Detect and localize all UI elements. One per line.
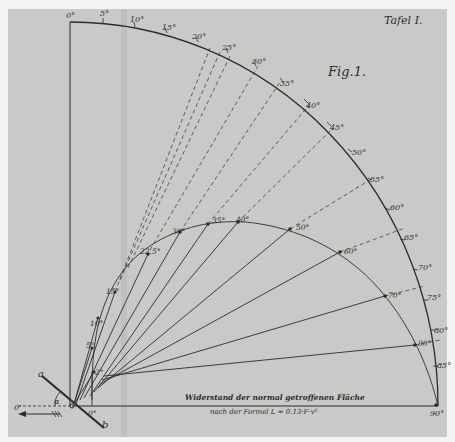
outer-label-75: 75° — [427, 293, 441, 302]
plate-title: Tafel I. — [384, 14, 422, 27]
inner-label-70: 70° — [388, 291, 402, 300]
caption-line-2: nach der Formel L = 0.13·F·v² — [210, 408, 318, 416]
outer-label-10: 10° — [130, 15, 144, 24]
outer-label-35: 35° — [280, 79, 294, 88]
inner-label-10: 10° — [90, 319, 104, 328]
force-diagram: 0° 5° 10° 15° 20° 25° 30° 35° 40° 45° 50… — [0, 0, 455, 442]
outer-label-50: 50° — [352, 148, 366, 157]
outer-label-60: 60° — [390, 203, 404, 212]
label-b: b — [102, 419, 108, 430]
dashed-rays — [115, 48, 440, 345]
label-a: a — [38, 368, 44, 379]
inner-label-15: 15° — [106, 287, 120, 296]
inner-curve-labels: 0° 2° 5° 10° 15° 22.5° 30° 35° 40° 50° 6… — [86, 215, 432, 418]
outer-label-0: 0° — [66, 11, 75, 20]
inner-label-35: 35° — [212, 216, 226, 225]
outer-label-25: 25° — [221, 43, 236, 52]
outer-label-30: 30° — [252, 57, 266, 66]
inner-label-5: 5° — [86, 341, 95, 350]
inner-label-0: 0° — [88, 409, 97, 418]
outer-label-80: 80° — [434, 326, 448, 335]
outer-label-70: 70° — [418, 263, 432, 272]
outer-label-5: 5° — [100, 9, 109, 18]
inner-label-2: 2° — [94, 368, 104, 377]
label-alpha: α — [54, 397, 60, 406]
outer-label-90: 90° — [430, 409, 444, 418]
outer-label-85: 85° — [437, 361, 451, 370]
plane-ab — [42, 376, 104, 428]
outer-label-20: 20° — [191, 32, 206, 41]
inner-label-30: 30° — [172, 227, 186, 236]
caption-line-1: Widerstand der normal getroffenen Fläche — [185, 393, 365, 402]
inner-label-60: 60° — [344, 247, 358, 256]
outer-label-45: 45° — [329, 123, 344, 132]
outer-ticks — [103, 18, 438, 366]
solid-rays — [74, 222, 415, 404]
inner-label-22-5: 22.5° — [139, 247, 161, 256]
outer-label-15: 15° — [162, 23, 176, 32]
outer-label-65: 65° — [404, 233, 418, 242]
inner-label-80: 80° — [418, 339, 432, 348]
figure-label: Fig.1. — [327, 64, 366, 79]
inner-label-50: 50° — [296, 223, 310, 232]
outer-label-40: 40° — [305, 101, 320, 110]
inner-label-40: 40° — [235, 215, 250, 224]
outer-label-55: 55° — [370, 175, 384, 184]
label-origin: 0' — [14, 403, 21, 412]
